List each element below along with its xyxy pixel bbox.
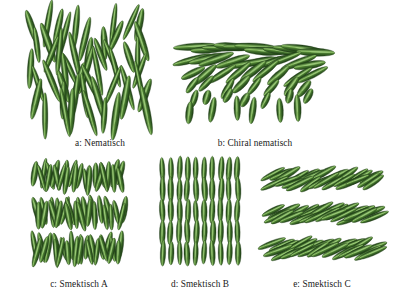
panel-nematisch — [26, 16, 150, 124]
caption-chiral-nematisch: b: Chiral nematisch — [190, 138, 320, 148]
panel-chiral-nematisch — [180, 42, 330, 120]
panel-smektisch-b — [158, 158, 242, 264]
caption-smektisch-a: c: Smektisch A — [26, 279, 132, 289]
caption-nematisch: a: Nematisch — [40, 138, 160, 148]
liquid-crystal-phases-figure: a: Nematisch b: Chiral nematisch c: Smek… — [0, 0, 396, 301]
caption-smektisch-b: d: Smektisch B — [147, 279, 253, 289]
panel-smektisch-c — [262, 159, 382, 263]
caption-smektisch-c: e: Smektisch C — [268, 279, 376, 289]
panel-smektisch-a — [27, 159, 131, 263]
